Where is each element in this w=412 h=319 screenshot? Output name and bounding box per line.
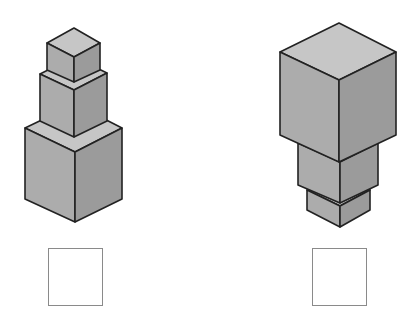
cube-top-large (280, 23, 396, 162)
stack-left (25, 28, 122, 222)
stack-right (280, 23, 396, 227)
answer-box-right[interactable] (312, 248, 367, 306)
answer-box-left[interactable] (48, 248, 103, 306)
cube-top-small (47, 28, 100, 82)
